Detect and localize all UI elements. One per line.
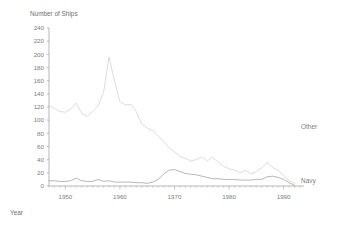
series-annotations: OtherNavy: [301, 123, 318, 185]
x-tick-label: 1970: [168, 193, 182, 200]
y-axis: 020406080100120140160180200220240: [34, 24, 49, 189]
y-tick-label: 240: [34, 24, 45, 31]
y-tick-label: 140: [34, 90, 45, 97]
y-tick-label: 0: [41, 182, 45, 189]
y-tick-label: 120: [34, 103, 45, 110]
y-tick-label: 60: [37, 143, 44, 150]
x-tick-label: 1990: [277, 193, 291, 200]
x-tick-label: 1960: [113, 193, 127, 200]
data-series-group: [49, 57, 295, 185]
line-chart-svg: 020406080100120140160180200220240 195019…: [0, 0, 342, 226]
series-line-navy: [49, 170, 295, 186]
series-label-other: Other: [301, 123, 318, 130]
y-tick-label: 160: [34, 77, 45, 84]
series-label-navy: Navy: [301, 177, 316, 185]
chart-container: 020406080100120140160180200220240 195019…: [0, 0, 342, 226]
x-axis-title: Year: [10, 209, 24, 216]
y-tick-label: 180: [34, 64, 45, 71]
series-line-other: [49, 57, 295, 183]
y-tick-label: 200: [34, 51, 45, 58]
x-tick-label: 1980: [222, 193, 236, 200]
y-tick-label: 220: [34, 37, 45, 44]
y-tick-label: 80: [37, 130, 44, 137]
x-tick-label: 1950: [58, 193, 72, 200]
y-tick-label: 40: [37, 156, 44, 163]
y-tick-label: 100: [34, 116, 45, 123]
y-axis-title: Number of Ships: [30, 10, 78, 18]
y-tick-label: 20: [37, 169, 44, 176]
x-axis: 19501960197019801990: [49, 186, 304, 200]
